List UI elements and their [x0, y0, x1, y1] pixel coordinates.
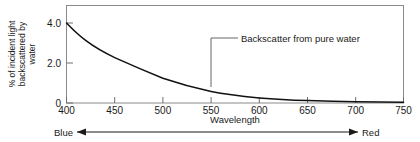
x-tick-label-400: 400	[58, 105, 75, 116]
y-axis-title-line1: % of incident light	[7, 20, 17, 87]
arrow-head-right	[349, 128, 358, 135]
plot-frame	[67, 6, 404, 104]
spectrum-label-red: Red	[362, 127, 379, 138]
chart-svg: 4.0 2.0 0 400 450 500 550 600 650 700 75…	[0, 0, 420, 142]
y-axis-title-line3: water	[27, 43, 37, 65]
x-tick-label-700: 700	[347, 105, 364, 116]
x-tick-label-650: 650	[299, 105, 316, 116]
y-axis-ticks	[67, 23, 74, 103]
annotation-label: Backscatter from pure water	[241, 33, 360, 44]
y-tick-label-2: 2.0	[47, 58, 61, 69]
spectrum-label-blue: Blue	[54, 127, 73, 138]
x-axis-title: Wavelength	[210, 114, 260, 125]
x-tick-label-450: 450	[106, 105, 123, 116]
x-tick-label-750: 750	[395, 105, 412, 116]
annotation-leader-line	[211, 38, 238, 87]
y-tick-label-4: 4.0	[47, 18, 61, 29]
arrow-head-left	[77, 128, 86, 135]
x-tick-label-500: 500	[155, 105, 172, 116]
spectrum-arrow-axis	[77, 128, 358, 135]
backscatter-chart-figure: 4.0 2.0 0 400 450 500 550 600 650 700 75…	[0, 0, 420, 142]
y-axis-title-line2: backscattered by	[17, 21, 27, 86]
